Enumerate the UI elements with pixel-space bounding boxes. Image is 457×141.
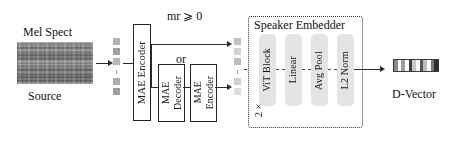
linear-block: Linear xyxy=(285,34,302,106)
mae-encoder-label: MAE Encoder xyxy=(136,41,147,104)
connector-linear-to-avgpool xyxy=(302,69,311,70)
vit-block-label: ViT Block xyxy=(262,48,273,92)
token-square xyxy=(234,88,241,95)
mid-token-column xyxy=(234,38,241,98)
arrow-encoder2-to-midtokens-head xyxy=(227,84,232,90)
l2-norm-block: L2 Norm xyxy=(337,34,354,106)
token-square xyxy=(113,88,120,95)
mel-spectrogram-image xyxy=(17,42,93,84)
input-token-column xyxy=(113,38,120,98)
arrow-top-branch-line xyxy=(150,44,228,45)
avg-pool-block: Avg Pool xyxy=(311,34,328,106)
token-ellipsis xyxy=(113,68,120,75)
mae-encoder-2-label-line2: Encoder xyxy=(204,76,215,109)
mel-spect-label: Mel Spect xyxy=(23,26,72,38)
d-vector-bar xyxy=(393,59,439,72)
mae-decoder-label-line2: Decoder xyxy=(172,76,183,110)
connector-avgpool-to-l2norm xyxy=(328,69,337,70)
arrow-embedder-to-dvector-line xyxy=(354,69,381,70)
architecture-diagram: Mel Spect Source MAE Encoder mr ⩾ 0 or M… xyxy=(0,0,457,141)
speaker-embedder-title: Speaker Embedder xyxy=(254,19,345,31)
repeat-count-label: 2× xyxy=(253,101,264,117)
connector-vit-to-linear xyxy=(276,69,285,70)
branch-condition-label: mr ⩾ 0 xyxy=(167,10,202,22)
token-ellipsis xyxy=(234,68,241,75)
d-vector-label: D-Vector xyxy=(392,88,436,100)
mae-encoder-2-block: MAEEncoder xyxy=(190,64,217,122)
mae-decoder-label: MAEDecoder xyxy=(160,76,183,110)
linear-block-label: Linear xyxy=(288,56,299,83)
mae-encoder-block: MAE Encoder xyxy=(133,24,151,121)
arrow-embedder-to-dvector-head xyxy=(380,66,385,72)
token-square xyxy=(234,48,241,55)
mae-decoder-label-line1: MAE xyxy=(160,82,171,104)
source-label: Source xyxy=(28,90,61,102)
l2-norm-block-label: L2 Norm xyxy=(340,51,351,89)
branch-lower-vertical xyxy=(151,63,152,87)
token-square xyxy=(113,48,120,55)
avg-pool-block-label: Avg Pool xyxy=(314,51,325,90)
token-square xyxy=(234,78,241,85)
mae-encoder-2-label: MAEEncoder xyxy=(192,76,215,109)
d-vector-segment xyxy=(434,60,438,71)
token-square xyxy=(234,58,241,65)
token-square xyxy=(113,78,120,85)
branch-split-vertical xyxy=(151,44,152,64)
mae-decoder-block: MAEDecoder xyxy=(158,64,185,122)
token-square xyxy=(234,38,241,45)
token-square xyxy=(113,58,120,65)
vit-block: ViT Block xyxy=(259,34,276,106)
token-square xyxy=(113,38,120,45)
mae-encoder-2-label-line1: MAE xyxy=(192,82,203,104)
arrow-top-branch-head xyxy=(227,41,232,47)
